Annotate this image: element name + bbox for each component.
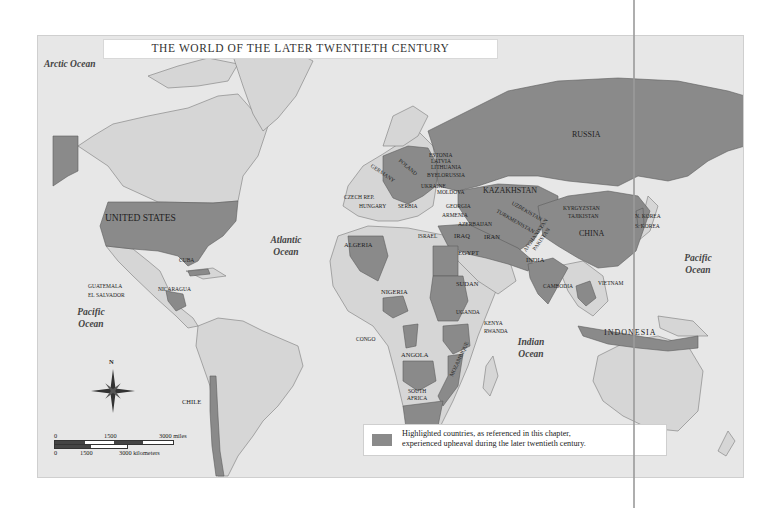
land-canada — [78, 94, 268, 203]
land-new-zealand — [718, 431, 735, 456]
label-algeria: Algeria — [344, 241, 373, 248]
label-nicaragua: Nicaragua — [158, 286, 191, 292]
label-georgia: Georgia — [446, 203, 471, 209]
region-congo — [403, 324, 418, 348]
label-czech-rep: Czech Rep. — [344, 194, 374, 200]
label-russia: Russia — [572, 130, 600, 139]
label-pacific-ocean-east: Pacific Ocean — [673, 252, 723, 276]
label-pacific-w-line2: Ocean — [66, 318, 116, 330]
legend-box: Highlighted countries, as referenced in … — [363, 424, 667, 456]
region-egypt — [433, 246, 458, 276]
label-indian-line1: Indian — [506, 336, 556, 348]
legend-line1: Highlighted countries, as referenced in … — [402, 429, 662, 439]
label-atlantic-line1: Atlantic — [256, 234, 316, 246]
compass-north-label: N — [109, 358, 114, 365]
label-atlantic-ocean: Atlantic Ocean — [256, 234, 316, 258]
scale-km-max: 3000 kilometers — [119, 449, 160, 456]
label-pacific-w-line1: Pacific — [66, 306, 116, 318]
label-cuba: Cuba — [179, 257, 194, 263]
label-cambodia: Cambodia — [543, 283, 573, 289]
map-title: THE WORLD OF THE LATER TWENTIETH CENTURY — [104, 42, 497, 54]
legend-swatch-highlighted — [372, 434, 392, 446]
label-serbia: Serbia — [398, 203, 418, 209]
label-south-africa-line1: South — [407, 388, 427, 395]
region-alaska — [53, 136, 78, 186]
label-arctic-ocean: Arctic Ocean — [44, 58, 95, 70]
label-sudan: Sudan — [456, 280, 478, 287]
label-pacific-e-line1: Pacific — [673, 252, 723, 264]
label-pacific-ocean-west: Pacific Ocean — [66, 306, 116, 330]
legend-line2: experienced upheaval during the later tw… — [402, 439, 662, 449]
label-uganda: Uganda — [456, 309, 480, 315]
label-azerbaijan: Azerbaijan — [458, 221, 492, 227]
label-byelorussia: Byelorussia — [427, 172, 465, 178]
land-new-guinea — [658, 316, 708, 336]
label-south-africa-line2: Africa — [407, 395, 427, 402]
scale-bar: 0 1500 3000 miles 0 1500 3000 kilometers — [52, 432, 192, 462]
label-pacific-e-line2: Ocean — [673, 264, 723, 276]
land-madagascar — [483, 356, 498, 396]
label-tajikistan: Tajikistan — [568, 213, 599, 219]
scale-miles-mid: 1500 — [104, 432, 117, 439]
land-australia — [593, 336, 703, 431]
label-iran: Iran — [484, 233, 500, 240]
map-frame: THE WORLD OF THE LATER TWENTIETH CENTURY… — [37, 35, 744, 478]
scale-miles-0: 0 — [54, 432, 57, 439]
label-nigeria: Nigeria — [381, 288, 408, 295]
label-south-africa: South Africa — [407, 388, 427, 402]
compass-rose — [91, 369, 135, 413]
label-chile: Chile — [182, 398, 201, 405]
label-s-korea: S. Korea — [635, 223, 660, 229]
label-angola: Angola — [401, 351, 428, 358]
label-vietnam: Vietnam — [598, 280, 623, 286]
label-indian-line2: Ocean — [506, 348, 556, 360]
world-map-svg — [38, 36, 744, 478]
label-atlantic-line2: Ocean — [256, 246, 316, 258]
label-india: India — [526, 256, 544, 263]
label-iraq: Iraq — [454, 232, 470, 239]
scale-km-0: 0 — [54, 449, 57, 456]
label-egypt: Egypt — [458, 249, 479, 256]
legend-text: Highlighted countries, as referenced in … — [402, 429, 662, 449]
scale-miles-max: 3000 miles — [159, 432, 187, 439]
label-kazakhstan: Kazakhstan — [483, 186, 537, 195]
label-kyrgyzstan: Kyrgyzstan — [563, 205, 600, 211]
label-congo: Congo — [356, 336, 376, 342]
label-n-korea: N. Korea — [635, 213, 661, 219]
label-guatemala: Guatemala — [88, 283, 122, 289]
label-china: China — [579, 229, 604, 238]
book-gutter-line — [633, 0, 635, 508]
label-indian-ocean: Indian Ocean — [506, 336, 556, 360]
map-title-box: THE WORLD OF THE LATER TWENTIETH CENTURY — [103, 39, 498, 59]
land-arctic-islands — [148, 58, 238, 88]
label-kenya: Kenya — [484, 320, 503, 326]
label-rwanda: Rwanda — [484, 328, 508, 334]
label-hungary: Hungary — [359, 203, 386, 209]
label-united-states: United States — [105, 213, 176, 223]
label-lithuania: Lithuania — [431, 164, 461, 170]
label-armenia: Armenia — [442, 212, 468, 218]
region-india — [528, 258, 568, 304]
label-el-salvador: El Salvador — [88, 292, 125, 298]
label-indonesia: Indonesia — [604, 328, 657, 337]
label-israel: Israel — [418, 233, 437, 239]
scale-km-mid: 1500 — [80, 449, 93, 456]
label-moldova: Moldova — [437, 189, 464, 195]
